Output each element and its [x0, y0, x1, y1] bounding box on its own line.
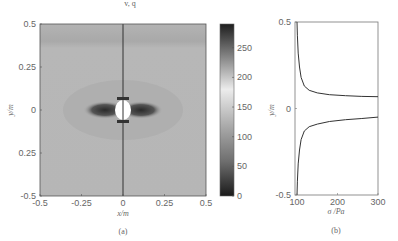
- top-fragment: v, q: [124, 0, 135, 8]
- caption-b: (b): [331, 226, 341, 235]
- colorbar-tick-label: 250: [237, 43, 252, 53]
- xtick-label-b: 300: [370, 197, 385, 207]
- xlabel-b: σ /Pa: [327, 207, 344, 216]
- xtick-label-a: -0.25: [71, 198, 92, 208]
- colorbar-tick-label: 100: [237, 132, 252, 142]
- xtick-label-b: 100: [290, 197, 305, 207]
- ytick-label-a: -0.5: [20, 191, 36, 201]
- line-panel-b: 1002003000.50-0.5 σ /Pa y/m (b): [267, 17, 386, 235]
- ytick-label-b: -0.5: [275, 190, 291, 200]
- figure: v, q -0.5-0.2500.250.50.50.2500.25-0.5 x…: [0, 0, 398, 241]
- colorbar-gradient: [220, 24, 234, 196]
- xtick-label-b: 200: [330, 197, 345, 207]
- ytick-label-a: 0.25: [18, 62, 36, 72]
- caption-a: (a): [119, 227, 128, 236]
- ytick-label-b: 0.5: [278, 17, 291, 27]
- heatmap-panel-a: -0.5-0.2500.250.50.50.2500.25-0.5 x/m y/…: [6, 19, 212, 236]
- axes-frame-b: [295, 22, 378, 195]
- xtick-label-a: 0.25: [156, 198, 174, 208]
- colorbar-tick-label: 200: [237, 72, 252, 82]
- xlabel-a: x/m: [116, 209, 129, 218]
- colorbar: 050100150200250: [220, 24, 252, 201]
- ytick-label-a: 0.5: [23, 19, 36, 29]
- ytick-label-a: 0.25: [18, 148, 36, 158]
- xtick-label-a: 0.5: [200, 198, 213, 208]
- ytick-label-a: 0: [31, 105, 36, 115]
- ylabel-a: y/m: [6, 104, 15, 117]
- ytick-label-b: 0: [286, 104, 291, 114]
- colorbar-tick-label: 150: [237, 102, 252, 112]
- colorbar-tick-label: 50: [237, 161, 247, 171]
- ylabel-b: y/m: [267, 104, 276, 117]
- colorbar-tick-label: 0: [237, 191, 242, 201]
- xtick-label-a: 0: [120, 198, 125, 208]
